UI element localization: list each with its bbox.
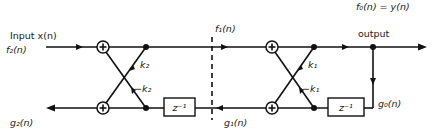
input-arrow-icon	[76, 44, 83, 50]
delay-label-stage2: z⁻¹	[172, 102, 187, 113]
adder-stage2-bottom	[97, 102, 109, 114]
output-arrow-icon	[418, 44, 427, 51]
neg-k2-label: −k₂	[134, 83, 151, 94]
forward-arrow-icon	[342, 44, 349, 50]
node-stage2-bottom	[143, 105, 149, 111]
lattice-filter-diagram: Input x(n) f₂(n) k₂ −k₂ k₁ −k₁	[0, 0, 435, 133]
node-stage1-bottom	[311, 105, 317, 111]
f0-output-equation: f₀(n) = y(n)	[356, 1, 410, 12]
delay-label-stage1: z⁻¹	[338, 102, 353, 113]
g1-arrow-icon	[216, 105, 223, 111]
output-label: output	[358, 28, 390, 39]
adder-stage1-top	[266, 41, 278, 53]
adder-stage2-top	[97, 41, 109, 53]
k2-branch	[106, 47, 146, 103]
neg-k1-label: −k₁	[302, 83, 319, 94]
f2-label: f₂(n)	[6, 44, 27, 55]
k2-label: k₂	[140, 59, 150, 70]
f1-label: f₁(n)	[215, 23, 236, 34]
k1-branch	[275, 47, 314, 103]
input-label: Input x(n)	[10, 30, 57, 41]
f1-arrow-icon	[221, 44, 228, 50]
node-stage1-top	[311, 44, 317, 50]
node-output	[370, 44, 376, 50]
g0-down-arrow-icon	[370, 78, 376, 85]
adder-stage1-bottom	[266, 102, 278, 114]
g2-label: g₂(n)	[10, 117, 33, 128]
g2-arrow-icon	[46, 105, 55, 112]
node-stage2-top	[143, 44, 149, 50]
k1-label: k₁	[308, 59, 318, 70]
g0-label: g₀(n)	[378, 98, 401, 109]
g1-label: g₁(n)	[224, 117, 247, 128]
